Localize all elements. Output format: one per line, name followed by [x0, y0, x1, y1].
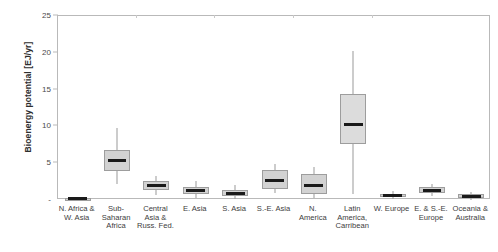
boxplot-median-line [226, 192, 245, 195]
y-axis-tick-label: 5 [0, 158, 51, 167]
boxplot-box-group [340, 16, 366, 200]
y-axis-tick-label: 25 [0, 11, 51, 20]
boxplot-median-line [68, 197, 87, 200]
x-axis-label-line: Australia [448, 214, 493, 223]
boxplot-box-group [65, 16, 91, 200]
boxplot-median-line [462, 195, 481, 198]
top-axis-tick-mark [136, 15, 137, 18]
plot-area [57, 15, 490, 199]
boxplot-box-group [222, 16, 248, 200]
boxplot-median-line [147, 184, 166, 187]
y-axis-tick-label: - [0, 195, 51, 204]
boxplot-box-group [262, 16, 288, 200]
boxplot-median-line [423, 189, 442, 192]
boxplot-box-group [143, 16, 169, 200]
x-axis-label-line: Carribean [330, 222, 375, 231]
x-axis-category-label: Oceania &Australia [448, 205, 493, 222]
boxplot-chart: Bioenergy potential [EJ/yr] -510152025 N… [0, 0, 498, 252]
boxplot-median-line [186, 189, 205, 192]
boxplot-box-group [301, 16, 327, 200]
boxplot-median-line [383, 194, 402, 197]
boxplot-median-line [265, 179, 284, 182]
top-axis-tick-mark [293, 15, 294, 18]
top-axis-tick-mark [214, 15, 215, 18]
y-axis-tick-label: 10 [0, 121, 51, 130]
boxplot-box-group [183, 16, 209, 200]
boxplot-box-group [104, 16, 130, 200]
top-axis-tick-mark [372, 15, 373, 18]
boxplot-box-group [419, 16, 445, 200]
boxplot-median-line [304, 184, 323, 187]
boxplot-box-group [458, 16, 484, 200]
boxplot-median-line [344, 123, 363, 126]
boxplot-box-group [380, 16, 406, 200]
boxplot-median-line [108, 159, 127, 162]
y-axis-tick-label: 15 [0, 84, 51, 93]
boxplot-iqr-box [340, 94, 366, 144]
y-axis-tick-label: 20 [0, 47, 51, 56]
x-axis-label-line: Russ. Fed. [133, 222, 178, 231]
